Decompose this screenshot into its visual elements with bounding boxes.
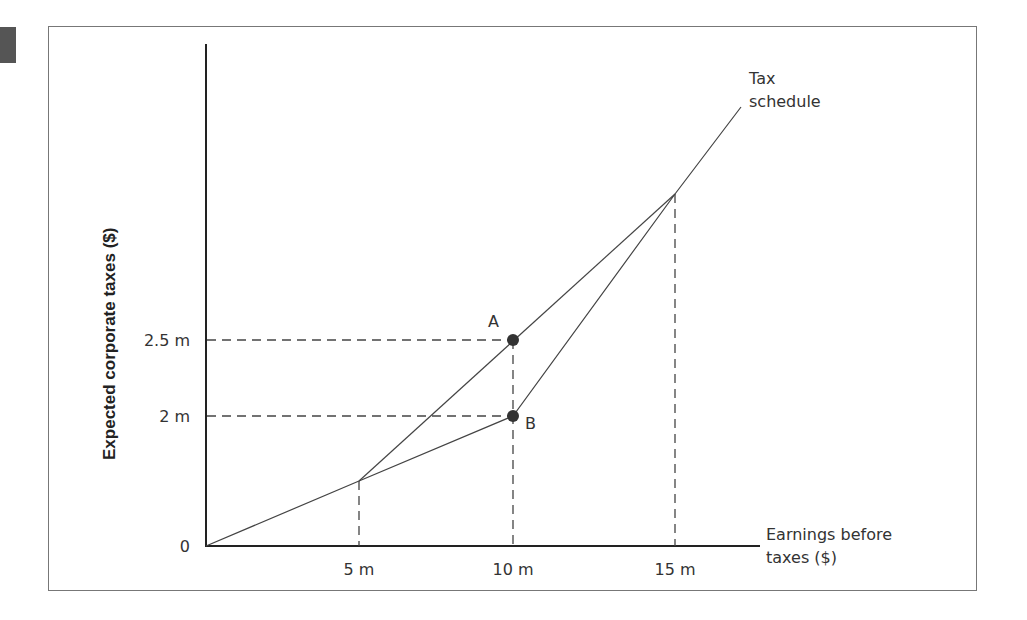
dashed-guides <box>207 194 675 546</box>
x-tick-5m: 5 m <box>344 560 375 579</box>
y-tick-2m: 2 m <box>159 407 190 426</box>
origin-label: 0 <box>180 537 190 556</box>
point-b-label: B <box>525 414 536 433</box>
tax-schedule-line <box>206 107 741 546</box>
x-axis-label-line1: Earnings before <box>766 525 892 544</box>
point-a <box>507 334 519 346</box>
point-b <box>507 410 519 422</box>
x-tick-10m: 10 m <box>492 560 533 579</box>
schedule-label-line2: schedule <box>749 92 821 111</box>
y-tick-2-5m: 2.5 m <box>144 331 190 350</box>
tax-schedule-chart: A B 2.5 m 2 m 0 5 m 10 m 15 m Tax schedu… <box>0 0 1027 620</box>
point-a-label: A <box>488 312 499 331</box>
y-axis-label: Expected corporate taxes ($) <box>100 228 119 460</box>
schedule-label-line1: Tax <box>748 69 775 88</box>
x-tick-15m: 15 m <box>654 560 695 579</box>
x-axis-label-line2: taxes ($) <box>766 548 837 567</box>
